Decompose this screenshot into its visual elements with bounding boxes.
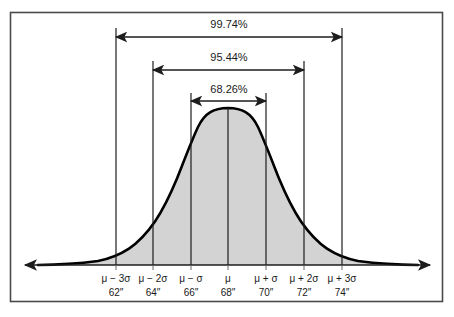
sigma-label-mu-plus-3sigma: μ + 3σ	[328, 273, 358, 284]
sigma-label-mu-minus-2sigma: μ − 2σ	[139, 273, 169, 284]
value-label-70: 70″	[259, 287, 274, 298]
value-label-74: 74″	[335, 287, 350, 298]
sigma-label-mu-plus-1sigma: μ + σ	[254, 273, 278, 284]
value-label-66: 66″	[184, 287, 199, 298]
annotation-label-68-26: 68.26%	[210, 83, 248, 95]
annotation-label-99-74: 99.74%	[210, 18, 248, 30]
value-label-62: 62″	[109, 287, 124, 298]
normal-distribution-figure: 99.74% 95.44% 68.26% μ − 3σ μ − 2σ μ − σ…	[0, 0, 454, 317]
value-label-64: 64″	[146, 287, 161, 298]
annotation-label-95-44: 95.44%	[210, 51, 248, 63]
sigma-label-mu-plus-2sigma: μ + 2σ	[290, 273, 320, 284]
distribution-chart-svg: 99.74% 95.44% 68.26% μ − 3σ μ − 2σ μ − σ…	[0, 0, 454, 317]
sigma-label-mu-minus-1sigma: μ − σ	[179, 273, 203, 284]
value-label-68: 68″	[221, 287, 236, 298]
sigma-label-mu-minus-3sigma: μ − 3σ	[102, 273, 132, 284]
value-label-72: 72″	[297, 287, 312, 298]
sigma-label-mu: μ	[225, 273, 231, 284]
